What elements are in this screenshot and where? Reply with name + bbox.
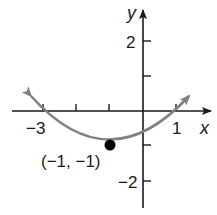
x-tick-label-neg3: −3 [26, 119, 45, 138]
graph: −3 1 x y 2 −2 (−1, −1) [0, 0, 217, 215]
x-ticks [43, 104, 176, 111]
x-axis-label: x [199, 118, 210, 138]
y-tick-label-neg2: −2 [118, 173, 137, 192]
y-axis-label: y [125, 3, 137, 23]
vertex-label: (−1, −1) [41, 152, 101, 171]
parabola-curve [31, 96, 189, 140]
vertex-point [105, 140, 116, 151]
y-tick-label-2: 2 [126, 33, 135, 52]
x-tick-label-1: 1 [172, 119, 181, 138]
